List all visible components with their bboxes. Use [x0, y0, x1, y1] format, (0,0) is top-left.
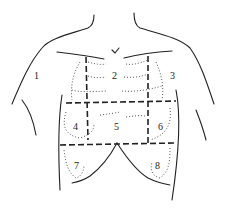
region-2-label: 2 [112, 70, 117, 81]
body-outline [0, 0, 225, 211]
region-1-label: 1 [34, 70, 39, 81]
region-6-label: 6 [158, 121, 163, 132]
region-8-label: 8 [155, 160, 160, 171]
chest-region-diagram: 1 2 3 4 5 6 7 8 [0, 0, 225, 211]
region-3-label: 3 [170, 70, 175, 81]
region-4-label: 4 [73, 121, 78, 132]
region-5-label: 5 [114, 121, 119, 132]
region-7-label: 7 [74, 160, 79, 171]
